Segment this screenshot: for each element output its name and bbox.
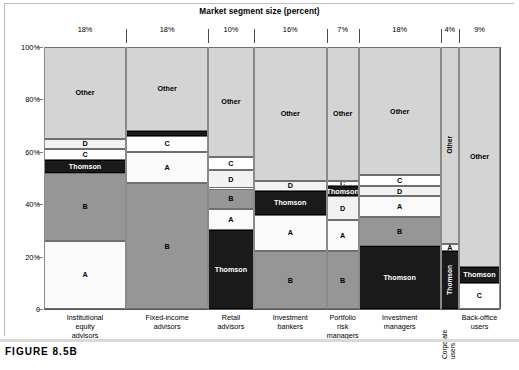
- column-divider-4: [327, 29, 328, 43]
- bar-segment-thomson[interactable]: Thomson: [255, 191, 326, 215]
- bar-column-back-office-users[interactable]: CThomsonOther: [459, 47, 500, 309]
- bar-segment-b[interactable]: B: [45, 173, 125, 241]
- chart-title: Market segment size (percent): [5, 7, 514, 16]
- caption-divider: [0, 339, 519, 342]
- plot-area: 100%80%60%40%20%0ABThomsonCDOther18%Inst…: [44, 43, 500, 309]
- bar-segment-c[interactable]: C: [328, 181, 358, 186]
- x-axis-label-investment-managers: Investmentmanagers: [359, 313, 441, 331]
- bar-segment-thomson[interactable]: Thomson: [209, 230, 253, 309]
- bar-segment-b[interactable]: B: [328, 251, 358, 309]
- bar-column-fixed-income-advisors[interactable]: BACOther: [126, 47, 208, 309]
- x-axis-label-line: users: [449, 313, 457, 359]
- bar-segment-other[interactable]: Other: [442, 47, 458, 244]
- column-divider-5: [359, 29, 360, 43]
- bar-segment-label: Thomson: [447, 265, 454, 295]
- bar-segment-other[interactable]: Other: [460, 47, 499, 267]
- bar-column-portfolio-risk-managers[interactable]: BADThomsonCOther: [327, 47, 359, 309]
- bar-segment-a[interactable]: A: [127, 152, 207, 183]
- bar-segment-d[interactable]: D: [360, 186, 440, 196]
- bar-segment-label: C: [340, 181, 345, 186]
- bar-segment-label: A: [165, 164, 170, 171]
- bar-segment-d[interactable]: D: [328, 196, 358, 220]
- column-divider-6: [441, 29, 442, 43]
- x-axis-label-line: Retail: [208, 313, 254, 322]
- bar-segment-label: Other: [390, 108, 409, 115]
- bar-segment-label: Thomson: [328, 188, 358, 195]
- x-axis-label-line: advisors: [208, 322, 254, 331]
- y-axis-tick-100: [36, 47, 43, 48]
- bar-segment-label: D: [397, 188, 402, 195]
- segment-size-label-3: 16%: [254, 25, 327, 34]
- bar-segment-other[interactable]: Other: [209, 47, 253, 157]
- bar-segment-label: Other: [281, 110, 300, 117]
- bar-segment-thomson[interactable]: [127, 131, 207, 136]
- bar-segment-label: B: [397, 228, 402, 235]
- bar-segment-label: A: [447, 244, 452, 251]
- figure-caption: FIGURE 8.5B: [5, 346, 78, 357]
- bar-segment-label: C: [228, 160, 233, 167]
- bar-segment-thomson[interactable]: Thomson: [328, 186, 358, 196]
- bar-segment-d[interactable]: D: [45, 139, 125, 149]
- y-axis-label-40: 40%: [6, 200, 40, 209]
- plot-left-edge: [44, 47, 45, 309]
- bar-segment-c[interactable]: C: [45, 149, 125, 159]
- bar-segment-other[interactable]: Other: [127, 47, 207, 131]
- bar-segment-b[interactable]: B: [209, 189, 253, 210]
- bar-segment-a[interactable]: A: [360, 196, 440, 217]
- y-axis-label-60: 60%: [6, 147, 40, 156]
- bar-column-investment-bankers[interactable]: BAThomsonDOther: [254, 47, 327, 309]
- bar-segment-label: D: [340, 205, 345, 212]
- bar-segment-c[interactable]: C: [460, 283, 499, 309]
- column-divider-1: [126, 29, 127, 43]
- bar-segment-b[interactable]: B: [127, 183, 207, 309]
- bar-segment-label: B: [340, 277, 345, 284]
- x-axis-label-line: Back-office: [459, 313, 500, 322]
- bar-column-retail-advisors[interactable]: ThomsonABDCOther: [208, 47, 254, 309]
- bar-segment-thomson[interactable]: Thomson: [460, 267, 499, 283]
- bar-segment-c[interactable]: C: [209, 157, 253, 170]
- bar-segment-d[interactable]: D: [209, 170, 253, 188]
- bar-segment-a[interactable]: A: [328, 220, 358, 251]
- bar-segment-label: Other: [470, 153, 489, 160]
- bar-segment-c[interactable]: C: [360, 175, 440, 185]
- bar-segment-a[interactable]: A: [209, 209, 253, 230]
- bar-segment-label: Thomson: [383, 274, 415, 281]
- bar-segment-label: A: [288, 229, 293, 236]
- bar-segment-a[interactable]: A: [45, 241, 125, 309]
- y-axis-label-80: 80%: [6, 95, 40, 104]
- x-axis-label-line: users: [459, 322, 500, 331]
- bar-segment-a[interactable]: A: [255, 215, 326, 252]
- bar-segment-label: D: [82, 140, 87, 147]
- bar-segment-c[interactable]: C: [127, 136, 207, 152]
- column-divider-2: [208, 29, 209, 43]
- bar-segment-other[interactable]: Other: [360, 47, 440, 175]
- x-axis-label-back-office-users: Back-officeusers: [459, 313, 500, 331]
- bar-segment-b[interactable]: B: [360, 217, 440, 246]
- bar-segment-a[interactable]: A: [442, 244, 458, 252]
- bar-segment-b[interactable]: B: [255, 251, 326, 309]
- bar-segment-other[interactable]: Other: [255, 47, 326, 181]
- bar-segment-label: Thomson: [463, 271, 495, 278]
- x-axis-label-line: Investment: [254, 313, 327, 322]
- bar-segment-thomson[interactable]: Thomson: [360, 246, 440, 309]
- plot-base-rule: [44, 309, 500, 310]
- bar-segment-label: C: [82, 151, 87, 158]
- bar-segment-thomson[interactable]: Thomson: [45, 160, 125, 173]
- y-axis-label-20: 20%: [6, 252, 40, 261]
- bar-column-investment-managers[interactable]: ThomsonBADCOther: [359, 47, 441, 309]
- plot-right-edge: [500, 47, 501, 309]
- bar-segment-thomson[interactable]: Thomson: [442, 251, 458, 309]
- bar-segment-other[interactable]: Other: [328, 47, 358, 181]
- x-axis-label-investment-bankers: Investmentbankers: [254, 313, 327, 331]
- bar-segment-label: Other: [221, 98, 240, 105]
- bar-column-corporate-users[interactable]: ThomsonAOther: [441, 47, 459, 309]
- bar-column-institutional-equity-advisors[interactable]: ABThomsonCDOther: [44, 47, 126, 309]
- bar-segment-label: C: [477, 292, 482, 299]
- bar-segment-d[interactable]: D: [255, 181, 326, 191]
- segment-size-label-0: 18%: [44, 25, 126, 34]
- bar-segment-other[interactable]: Other: [45, 47, 125, 139]
- column-divider-3: [254, 29, 255, 43]
- segment-size-label-5: 18%: [359, 25, 441, 34]
- bar-segment-label: A: [82, 271, 87, 278]
- x-axis-label-line: Investment: [359, 313, 441, 322]
